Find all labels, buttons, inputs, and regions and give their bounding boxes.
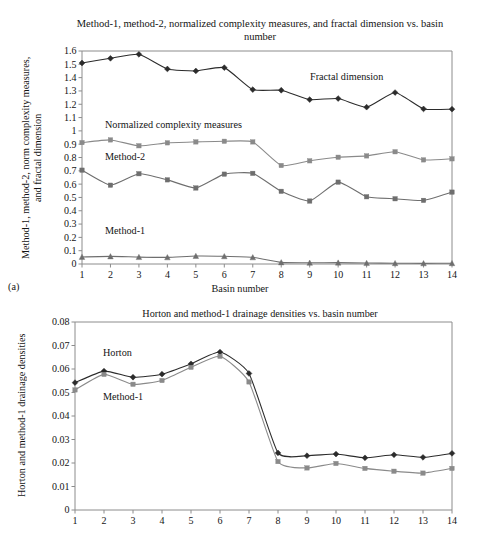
data-point-method-2 (251, 171, 255, 175)
x-tick-label: 9 (305, 515, 310, 526)
data-point-method-1 (421, 471, 425, 475)
data-point-fractal-dimension (392, 90, 398, 96)
data-point-normalized-complexity-measures (80, 140, 84, 144)
data-point-method-1 (218, 354, 222, 358)
data-point-fractal-dimension (421, 106, 427, 112)
series-line-fractal-dimension (82, 54, 452, 109)
data-point-fractal-dimension (79, 60, 85, 66)
data-point-method-1 (392, 469, 396, 473)
annotation-horton: Horton (103, 347, 132, 358)
data-point-horton (362, 455, 368, 461)
data-point-normalized-complexity-measures (307, 159, 311, 163)
data-point-method-1 (450, 466, 454, 470)
annotation-method-1: Method-1 (103, 391, 143, 402)
x-tick-label: 6 (222, 269, 227, 280)
y-tick-label: 0.04 (52, 410, 70, 421)
x-tick-label: 11 (360, 515, 370, 526)
x-tick-label: 5 (193, 269, 198, 280)
data-point-normalized-complexity-measures (336, 155, 340, 159)
data-point-method-1 (131, 382, 135, 386)
data-point-method-1 (73, 388, 77, 392)
y-tick-label: 0.8 (64, 152, 77, 163)
x-tick-label: 8 (276, 515, 281, 526)
data-point-fractal-dimension (307, 97, 313, 103)
y-tick-label: 0.08 (52, 316, 70, 327)
annotation-fractal-dimension: Fractal dimension (310, 71, 383, 82)
x-tick-label: 5 (189, 515, 194, 526)
y-tick-label: 0.07 (52, 340, 70, 351)
x-tick-label: 14 (447, 515, 457, 526)
chart-canvas-b: 00.010.020.030.040.050.060.070.081234567… (0, 300, 482, 533)
data-point-method-2 (137, 172, 141, 176)
x-tick-label: 8 (279, 269, 284, 280)
data-point-normalized-complexity-measures (421, 158, 425, 162)
panel-letter-a: (a) (8, 281, 19, 292)
y-tick-label: 0.1 (64, 245, 77, 256)
data-point-method-2 (165, 178, 169, 182)
data-point-method-2 (421, 198, 425, 202)
figure-panel-a: Method-1, method-2, normalized complexit… (0, 0, 482, 300)
data-point-method-2 (307, 199, 311, 203)
y-tick-label: 0 (72, 258, 77, 269)
x-axis-label-a: Basin number (180, 283, 300, 294)
data-point-method-1 (305, 466, 309, 470)
data-point-horton (159, 371, 165, 377)
data-point-method-2 (364, 195, 368, 199)
data-point-normalized-complexity-measures (450, 157, 454, 161)
y-tick-label: 0.02 (52, 457, 70, 468)
data-point-normalized-complexity-measures (279, 163, 283, 167)
x-tick-label: 12 (389, 515, 399, 526)
y-tick-label: 0.05 (52, 387, 70, 398)
data-point-method-1 (363, 466, 367, 470)
x-tick-label: 10 (333, 269, 343, 280)
x-tick-label: 13 (418, 515, 428, 526)
data-point-method-1 (334, 461, 338, 465)
data-point-horton (304, 453, 310, 459)
data-point-normalized-complexity-measures (364, 154, 368, 158)
figure-panel-b: Horton and method-1 drainage densities v… (0, 300, 482, 533)
chart-canvas-a: 00.10.20.30.40.50.60.70.80.911.11.21.31.… (0, 0, 482, 300)
data-point-horton (449, 450, 455, 456)
y-tick-label: 1.4 (64, 72, 77, 83)
data-point-horton (391, 452, 397, 458)
x-tick-label: 10 (331, 515, 341, 526)
data-point-horton (420, 454, 426, 460)
data-point-normalized-complexity-measures (222, 139, 226, 143)
x-tick-label: 2 (108, 269, 113, 280)
data-point-method-2 (279, 189, 283, 193)
data-point-normalized-complexity-measures (251, 140, 255, 144)
data-point-normalized-complexity-measures (165, 141, 169, 145)
data-point-fractal-dimension (193, 68, 199, 74)
annotation-normalized-complexity: Normalized complexity measures (105, 119, 242, 130)
x-tick-label: 1 (73, 515, 78, 526)
data-point-horton (72, 380, 78, 386)
data-point-fractal-dimension (449, 106, 455, 112)
y-tick-label: 1.1 (64, 112, 77, 123)
x-tick-label: 4 (165, 269, 170, 280)
y-tick-label: 0.9 (64, 139, 77, 150)
data-point-normalized-complexity-measures (194, 140, 198, 144)
data-point-normalized-complexity-measures (137, 144, 141, 148)
x-tick-label: 7 (250, 269, 255, 280)
data-point-method-1 (160, 378, 164, 382)
y-tick-label: 1.3 (64, 85, 77, 96)
x-tick-label: 4 (160, 515, 165, 526)
y-tick-label: 1 (72, 125, 77, 136)
data-point-fractal-dimension (164, 66, 170, 72)
data-point-method-1 (189, 365, 193, 369)
y-tick-label: 0.7 (64, 165, 77, 176)
x-tick-label: 11 (362, 269, 372, 280)
x-tick-label: 3 (131, 515, 136, 526)
y-tick-label: 0.2 (64, 232, 77, 243)
data-point-fractal-dimension (250, 87, 256, 93)
y-tick-label: 1.6 (64, 45, 77, 56)
data-point-method-2 (108, 183, 112, 187)
y-tick-label: 1.2 (64, 99, 77, 110)
data-point-method-1 (247, 380, 251, 384)
data-point-fractal-dimension (136, 51, 142, 57)
data-point-method-2 (222, 172, 226, 176)
y-tick-label: 0.3 (64, 218, 77, 229)
data-point-fractal-dimension (221, 65, 227, 71)
x-tick-label: 7 (247, 515, 252, 526)
series-line-horton (75, 352, 452, 458)
